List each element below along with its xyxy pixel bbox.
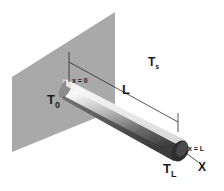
length-label: L [122,82,130,97]
x-axis-line [186,153,198,162]
x-start-label: x = 0 [72,77,88,84]
fin-diagram: x = 0 L Ts T0 x = L TL X [0,0,224,191]
x-axis-label: X [198,160,206,174]
x-end-label: x = L [188,145,205,152]
tip-temperature-label: TL [163,161,177,179]
ambient-temperature-label: Ts [148,55,159,70]
